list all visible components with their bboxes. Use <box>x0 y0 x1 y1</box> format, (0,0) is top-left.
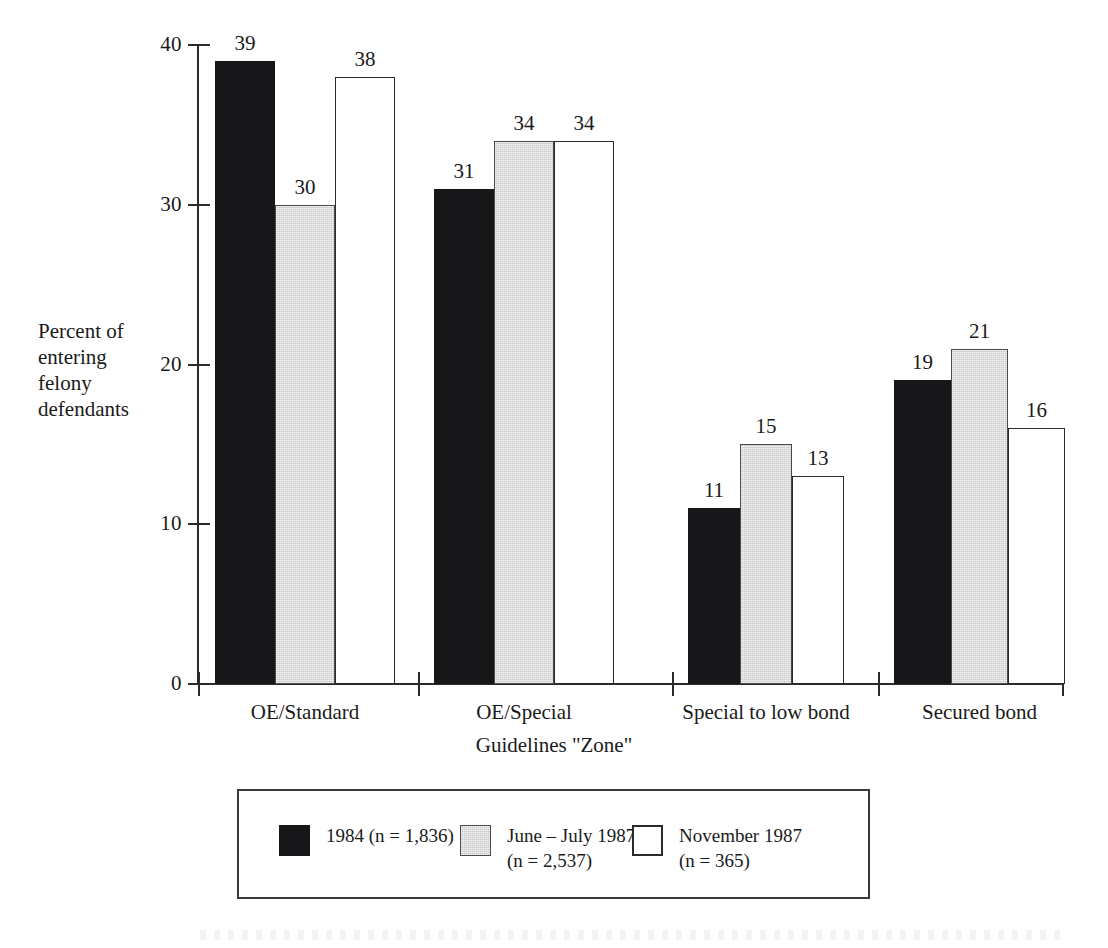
bar <box>688 508 740 684</box>
bar <box>554 141 614 684</box>
bar <box>894 380 951 684</box>
legend-entry: November 1987 (n = 365) <box>632 823 802 873</box>
bar-value-label: 11 <box>688 480 740 501</box>
y-axis-tick-label: 10 <box>142 513 182 534</box>
bar <box>434 189 494 684</box>
y-axis-tick-label: 40 <box>142 34 182 55</box>
bar-value-label: 13 <box>792 448 844 469</box>
black-swatch-icon <box>279 825 310 856</box>
x-axis-category-label: Secured bond <box>834 700 1108 724</box>
bar <box>951 349 1008 684</box>
y-axis-tick-label-wrap: 30 <box>142 194 182 215</box>
bar-value-label: 38 <box>335 49 395 70</box>
bar <box>275 205 335 684</box>
bar-value-label: 30 <box>275 177 335 198</box>
y-axis-tick-label-wrap: 20 <box>142 354 182 375</box>
bar-value-label: 39 <box>215 33 275 54</box>
bar-value-label: 19 <box>894 352 951 373</box>
bar-value-label: 34 <box>494 113 554 134</box>
page-footer-artifact <box>200 930 1060 940</box>
y-axis-title-line-1: Percent of <box>38 318 188 344</box>
bar <box>792 476 844 684</box>
y-axis-title-line-4: defendants <box>38 396 188 422</box>
bar-value-label: 21 <box>951 321 1008 342</box>
y-axis-tick-label-wrap: 0 <box>142 673 182 694</box>
legend-label: 1984 (n = 1,836) <box>326 823 454 848</box>
bar-value-label: 34 <box>554 113 614 134</box>
x-axis-title: Guidelines "Zone" <box>0 733 1108 757</box>
legend-label: November 1987 (n = 365) <box>679 823 802 873</box>
bar <box>335 77 395 684</box>
y-axis-tick-label: 20 <box>142 354 182 375</box>
bar <box>494 141 554 684</box>
bar <box>215 61 275 684</box>
bar <box>1008 428 1065 684</box>
legend-label: June – July 1987 (n = 2,537) <box>507 823 635 873</box>
legend: 1984 (n = 1,836) June – July 1987 (n = 2… <box>237 789 870 899</box>
bar-value-label: 16 <box>1008 400 1065 421</box>
bar-value-label: 15 <box>740 416 792 437</box>
bar-value-label: 31 <box>434 161 494 182</box>
y-axis-tick-label: 0 <box>142 673 182 694</box>
bar-chart: Percent of entering felony defendants 01… <box>0 0 1108 948</box>
legend-entry: 1984 (n = 1,836) <box>279 823 454 856</box>
y-axis-tick-label-wrap: 40 <box>142 34 182 55</box>
y-axis-tick-label: 30 <box>142 194 182 215</box>
bar <box>740 444 792 684</box>
y-axis-tick-label-wrap: 10 <box>142 513 182 534</box>
gray-swatch-icon <box>460 825 491 856</box>
legend-entry: June – July 1987 (n = 2,537) <box>460 823 635 873</box>
white-swatch-icon <box>632 825 663 856</box>
